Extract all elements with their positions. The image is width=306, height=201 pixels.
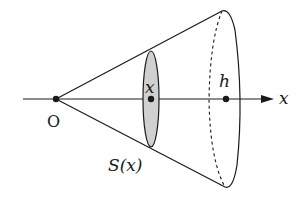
height-point [223,96,229,102]
axis-arrow-icon [261,95,274,103]
cone-upper-edge [56,11,222,99]
origin-label: O [47,112,60,131]
origin-point [53,96,59,102]
diagram-canvas: O x h x S(x) [0,0,306,201]
axis-label: x [279,88,289,108]
area-label: S(x) [108,155,143,175]
height-label: h [219,71,230,91]
cone-diagram: O x h x S(x) [0,0,306,201]
cross-section-position-label: x [145,77,155,97]
